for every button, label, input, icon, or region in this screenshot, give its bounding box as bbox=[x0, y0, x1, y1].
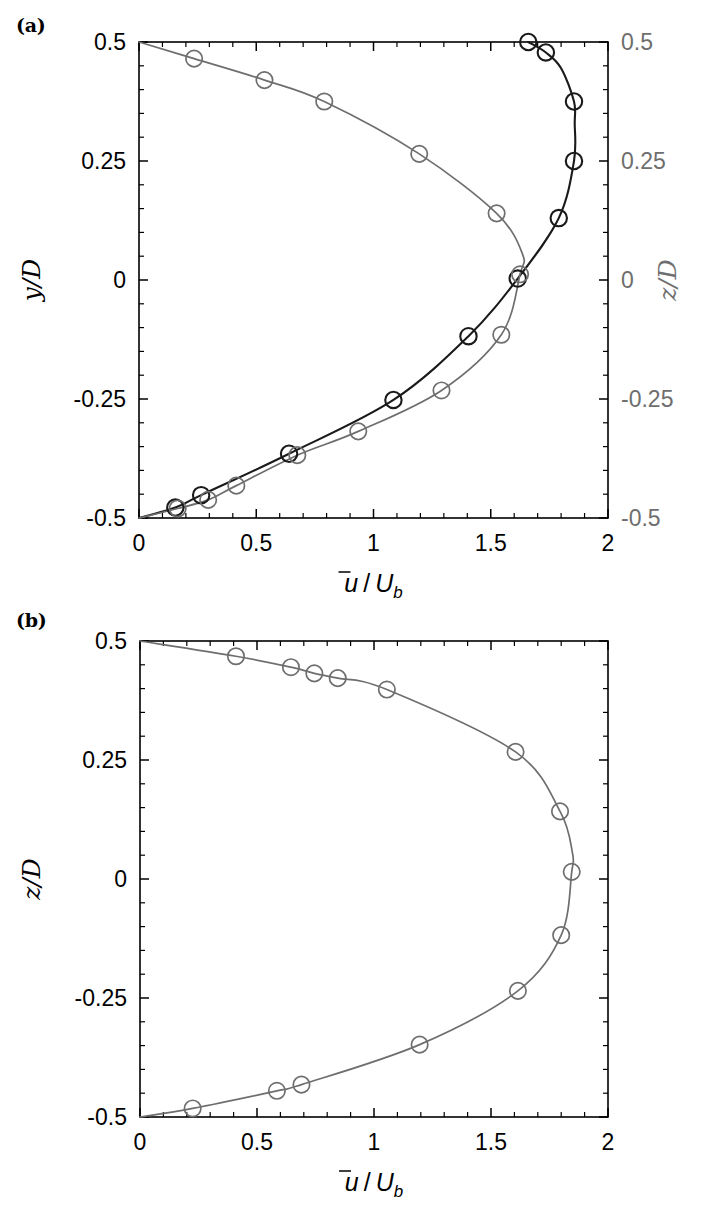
x-tick-label: 1 bbox=[367, 530, 380, 556]
x-tick-label: 1 bbox=[368, 1129, 381, 1155]
y-tick-label-right: 0.25 bbox=[621, 148, 666, 174]
y-tick-label: 0.25 bbox=[81, 148, 126, 174]
right-axis-title: z/D bbox=[653, 259, 682, 302]
figure-velocity-profiles: (a) 00.511.52-0.5-0.5-0.25-0.25000.250.2… bbox=[0, 0, 715, 1226]
x-tick-label: 0 bbox=[134, 1129, 147, 1155]
x-axis-title: u / Ub bbox=[339, 1168, 403, 1201]
x-tick-label: 2 bbox=[602, 1129, 615, 1155]
panel-b: (b) 00.511.52-0.5-0.2500.250.5z/Du / Ub bbox=[0, 600, 715, 1226]
y-tick-label: -0.5 bbox=[86, 505, 126, 531]
y-tick-label: 0.5 bbox=[94, 29, 126, 55]
series-line-0 bbox=[140, 641, 574, 1117]
x-axis-title-text: u / Ub bbox=[344, 569, 402, 602]
y-tick-label: -0.5 bbox=[87, 1104, 127, 1130]
y-tick-label: 0.5 bbox=[95, 628, 127, 654]
x-tick-label: 0.5 bbox=[241, 1129, 273, 1155]
y-tick-label: 0.25 bbox=[82, 747, 127, 773]
y-tick-label-right: -0.25 bbox=[621, 386, 673, 412]
plot-frame bbox=[139, 42, 608, 518]
panel-a-tag: (a) bbox=[16, 14, 45, 36]
y-tick-label-right: -0.5 bbox=[621, 505, 661, 531]
left-axis-title: y/D bbox=[17, 259, 46, 303]
panel-b-tag: (b) bbox=[16, 609, 46, 631]
x-tick-label: 2 bbox=[602, 530, 615, 556]
x-axis-title-text: u / Ub bbox=[345, 1168, 403, 1201]
y-tick-label: 0 bbox=[113, 267, 126, 293]
plot-frame bbox=[140, 641, 608, 1117]
panel-b-plot: 00.511.52-0.5-0.2500.250.5z/Du / Ub bbox=[0, 600, 715, 1226]
y-tick-label: -0.25 bbox=[74, 386, 126, 412]
x-tick-label: 0.5 bbox=[240, 530, 272, 556]
x-tick-label: 0 bbox=[133, 530, 146, 556]
x-tick-label: 1.5 bbox=[475, 530, 507, 556]
y-tick-label-right: 0 bbox=[621, 267, 634, 293]
x-tick-label: 1.5 bbox=[475, 1129, 507, 1155]
left-axis-title: z/D bbox=[17, 858, 46, 901]
y-tick-label: 0 bbox=[114, 866, 127, 892]
y-tick-label: -0.25 bbox=[75, 985, 127, 1011]
panel-a: (a) 00.511.52-0.5-0.5-0.25-0.25000.250.2… bbox=[0, 0, 715, 613]
y-tick-label-right: 0.5 bbox=[621, 29, 653, 55]
series-line-1 bbox=[139, 42, 524, 518]
panel-a-plot: 00.511.52-0.5-0.5-0.25-0.25000.250.250.5… bbox=[0, 0, 715, 613]
x-axis-title: u / Ub bbox=[339, 569, 403, 602]
